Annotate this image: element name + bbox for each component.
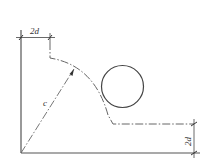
profile-curve bbox=[50, 42, 194, 124]
radius-label: c bbox=[43, 98, 47, 108]
radius-line bbox=[21, 69, 74, 153]
diagram: 2d c 2d bbox=[0, 0, 213, 163]
diagram-svg: 2d c 2d bbox=[0, 0, 213, 163]
circle bbox=[102, 66, 144, 108]
top-dimension-label: 2d bbox=[30, 26, 40, 36]
right-dimension-label: 2d bbox=[183, 137, 193, 147]
